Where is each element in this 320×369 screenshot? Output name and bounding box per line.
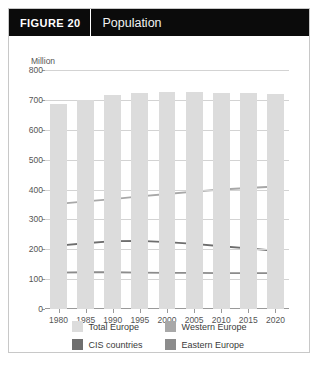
figure-number-label: FIGURE 20 [9,17,90,29]
legend-item-label: Western Europe [182,322,247,332]
bar-total-europe [131,93,148,309]
legend-item[interactable]: Western Europe [165,321,247,332]
bar-total-europe [50,104,67,309]
y-axis-tick-label: 400 [29,185,43,195]
y-axis-tick-label: 0 [38,304,43,314]
x-axis-tick-mark [221,309,222,313]
x-axis-tick-mark [167,309,168,313]
y-axis-tick-label: 200 [29,244,43,254]
bar-total-europe [213,93,230,309]
legend-swatch-icon [72,339,83,350]
legend-item-label: CIS countries [89,340,143,350]
legend-item-label: Total Europe [89,322,140,332]
figure-card: FIGURE 20 Population Million 01002003004… [8,8,310,353]
legend-item[interactable]: CIS countries [72,339,143,350]
x-axis-tick-mark [194,309,195,313]
figure-header: FIGURE 20 Population [9,9,309,36]
bar-total-europe [267,94,284,309]
x-axis-tick-mark [59,309,60,313]
bar-total-europe [186,92,203,309]
chart-area: Million 01002003004005006007008001980198… [9,36,309,353]
legend-item[interactable]: Eastern Europe [165,339,247,350]
y-axis-tick-label: 500 [29,155,43,165]
gridline [45,70,289,71]
plot-region: 0100200300400500600700800198019851990199… [45,70,289,309]
legend-item-label: Eastern Europe [182,340,245,350]
chart-legend: Total EuropeWestern EuropeCIS countriesE… [9,321,309,350]
bar-total-europe [240,93,257,309]
y-axis-tick-label: 600 [29,125,43,135]
legend-swatch-icon [165,321,176,332]
bar-total-europe [104,95,121,310]
x-axis-tick-mark [86,309,87,313]
legend-swatch-icon [72,321,83,332]
figure-title: Population [91,16,161,30]
y-axis-tick-label: 100 [29,274,43,284]
x-axis-tick-mark [275,309,276,313]
y-axis-tick-label: 700 [29,95,43,105]
y-axis-tick-label: 800 [29,65,43,75]
x-axis-tick-mark [140,309,141,313]
bar-total-europe [159,92,176,309]
legend-item[interactable]: Total Europe [72,321,143,332]
legend-swatch-icon [165,339,176,350]
x-axis-tick-mark [113,309,114,313]
x-axis-tick-mark [248,309,249,313]
bar-total-europe [77,100,94,309]
y-axis-tick-label: 300 [29,214,43,224]
